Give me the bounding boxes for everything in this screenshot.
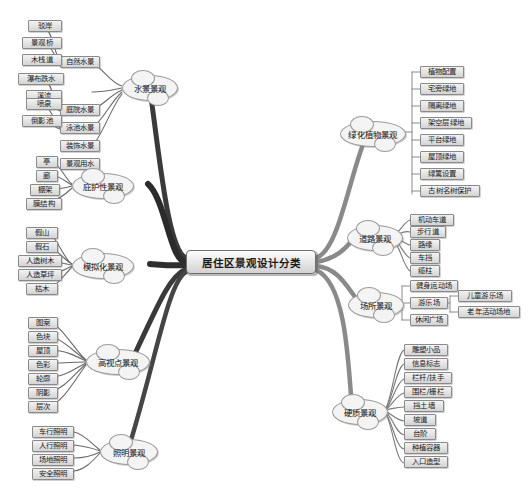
- subtopic-decorative-water[interactable]: 装饰水景: [60, 140, 100, 152]
- leaf-children-playground[interactable]: 儿童游乐场: [458, 290, 512, 302]
- leaf-artificial-stone[interactable]: 假石: [26, 241, 58, 253]
- leaf-vehicle-lighting[interactable]: 车行照明: [32, 426, 74, 438]
- leaf-shadow[interactable]: 阴影: [28, 387, 58, 399]
- leaf-car-stop[interactable]: 车挡: [410, 252, 440, 264]
- branch-topic-road[interactable]: 道路景观: [347, 225, 403, 251]
- leaf-pergola[interactable]: 棚架: [30, 184, 60, 196]
- branch-topic-shelter[interactable]: 庇护性景观: [72, 173, 134, 199]
- leaf-fitness-ground[interactable]: 健身运动场: [410, 280, 458, 292]
- leaf-retaining-wall[interactable]: 挡土墙: [404, 400, 444, 412]
- branch-topic-highview[interactable]: 高视点景观: [86, 349, 150, 375]
- leaf-steps[interactable]: 台阶: [404, 428, 436, 440]
- leaf-leisure-plaza[interactable]: 休闲广场: [410, 314, 448, 326]
- leaf-fountain[interactable]: 喷泉: [26, 98, 62, 110]
- leaf-roof-green[interactable]: 屋顶绿地: [420, 151, 464, 163]
- leaf-sculpture[interactable]: 雕塑小品: [404, 344, 448, 356]
- leaf-overhead-green[interactable]: 架空层绿地: [420, 117, 472, 129]
- leaf-residential-green[interactable]: 宅旁绿地: [420, 83, 464, 95]
- leaf-hedge-setting[interactable]: 绿篱设置: [420, 168, 464, 180]
- leaf-pavilion[interactable]: 亭: [36, 156, 58, 168]
- leaf-rooftop[interactable]: 屋顶: [28, 345, 58, 357]
- leaf-bollard[interactable]: 缆柱: [410, 265, 440, 277]
- leaf-ramp[interactable]: 坡道: [404, 414, 436, 426]
- leaf-reflecting-pool[interactable]: 倒影池: [22, 115, 62, 127]
- leaf-corridor[interactable]: 廊: [36, 170, 58, 182]
- leaf-landscape-bridge[interactable]: 景观桥: [22, 37, 62, 49]
- leaf-elderly-activity-area[interactable]: 老年活动场地: [458, 306, 520, 318]
- leaf-layering[interactable]: 层次: [28, 401, 58, 413]
- leaf-color[interactable]: 色彩: [28, 359, 58, 371]
- branch-topic-hardscape[interactable]: 硬质景观: [332, 399, 388, 425]
- leaf-artificial-lawn[interactable]: 人造草坪: [18, 269, 62, 281]
- leaf-entrance-design[interactable]: 入口造型: [404, 456, 448, 468]
- leaf-revetment[interactable]: 驳岸: [28, 20, 62, 32]
- subtopic-courtyard-water[interactable]: 庭院水景: [60, 104, 100, 116]
- leaf-rockery[interactable]: 假山: [26, 227, 58, 239]
- leaf-deadwood[interactable]: 枯木: [26, 283, 58, 295]
- leaf-plant-configuration[interactable]: 植物配置: [420, 66, 464, 78]
- leaf-artificial-tree[interactable]: 人造树木: [18, 255, 62, 267]
- central-topic[interactable]: 居住区景观设计分类: [186, 250, 316, 274]
- leaf-color-block[interactable]: 色块: [28, 331, 58, 343]
- branch-topic-planting[interactable]: 绿化植物景观: [340, 121, 406, 147]
- leaf-ancient-tree-protection[interactable]: 古树名树保护: [420, 185, 480, 197]
- subtopic-pool-water[interactable]: 泳池水景: [60, 122, 100, 134]
- branch-topic-place[interactable]: 场所景观: [348, 292, 404, 318]
- leaf-isolation-green[interactable]: 隔离绿地: [420, 100, 464, 112]
- leaf-railing-handrail[interactable]: 栏杆/扶手: [404, 372, 452, 384]
- branch-topic-lighting[interactable]: 照明景观: [100, 439, 158, 465]
- leaf-footpath[interactable]: 步行道: [410, 226, 446, 238]
- leaf-information-sign[interactable]: 信息标志: [404, 358, 448, 370]
- leaf-site-lighting[interactable]: 场地照明: [32, 454, 74, 466]
- leaf-playground[interactable]: 游乐场: [410, 297, 448, 309]
- leaf-outline[interactable]: 轮廓: [28, 373, 58, 385]
- subtopic-natural-water[interactable]: 自然水景: [60, 56, 100, 68]
- leaf-motorway[interactable]: 机动车道: [410, 214, 454, 226]
- leaf-platform-green[interactable]: 平台绿地: [420, 134, 464, 146]
- leaf-fence-palisade[interactable]: 围栏/栅栏: [404, 386, 452, 398]
- leaf-membrane-structure[interactable]: 膜结构: [26, 198, 62, 210]
- leaf-planter[interactable]: 种植容器: [404, 442, 448, 454]
- branch-topic-water[interactable]: 水景景观: [122, 75, 178, 101]
- leaf-boardwalk[interactable]: 木栈道: [22, 54, 62, 66]
- leaf-safety-lighting[interactable]: 安全照明: [32, 468, 74, 480]
- leaf-pedestrian-lighting[interactable]: 人行照明: [32, 440, 74, 452]
- leaf-pattern[interactable]: 图案: [28, 317, 58, 329]
- leaf-curb[interactable]: 路缘: [410, 239, 440, 251]
- branch-topic-simulation[interactable]: 模拟化景观: [72, 253, 134, 279]
- leaf-waterfall[interactable]: 瀑布跌水: [18, 73, 64, 85]
